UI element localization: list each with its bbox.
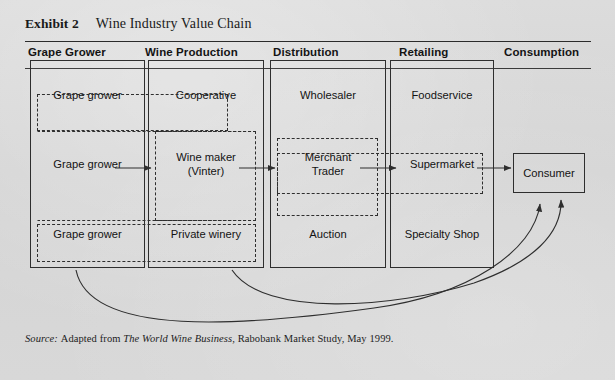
- exhibit-label: Exhibit 2: [25, 16, 79, 32]
- exhibit-title-row: Exhibit 2 Wine Industry Value Chain: [25, 16, 591, 38]
- column-header-consumption: Consumption: [504, 46, 579, 64]
- group-box-private-winery-channel: [37, 224, 256, 262]
- exhibit-figure: Exhibit 2 Wine Industry Value Chain Grap…: [14, 8, 600, 366]
- source-text-before: Adapted from: [61, 333, 124, 344]
- cell-distribution-1: Wholesaler: [271, 61, 385, 130]
- group-box-cooperative-channel: [37, 94, 228, 131]
- source-text-after: , Rabobank Market Study, May 1999.: [232, 333, 393, 344]
- cell-retailing-3: Specialty Shop: [391, 200, 493, 269]
- source-note: Source: Adapted from The World Wine Busi…: [25, 333, 591, 344]
- title-rule-top: [25, 41, 591, 42]
- source-prefix: Source:: [25, 333, 61, 344]
- cell-retailing-1: Foodservice: [391, 61, 493, 130]
- group-box-trade-to-retail: [277, 153, 483, 194]
- consumer-box: Consumer: [513, 153, 585, 193]
- exhibit-title: Wine Industry Value Chain: [96, 16, 252, 32]
- source-italic-title: The World Wine Business: [123, 333, 232, 344]
- group-box-grower-to-vinter: [37, 131, 256, 221]
